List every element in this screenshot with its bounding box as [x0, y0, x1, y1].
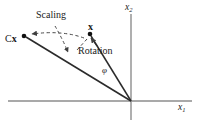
axis-x1-subscript: 1	[182, 106, 185, 113]
cx-vector-text: x	[12, 33, 17, 44]
scaling-leader-dashed	[55, 26, 68, 52]
cx-vector-label: Cx	[5, 34, 17, 44]
scaling-dashed-arc	[32, 33, 84, 38]
point-marker-x	[88, 32, 93, 37]
diagram-canvas	[0, 0, 199, 127]
axis-x1-label: x1	[178, 103, 185, 113]
axis-x2-subscript: 2	[129, 6, 132, 13]
figure-container: Scaling Cx x Rotation φ x2 x1	[0, 0, 199, 127]
rotation-label: Rotation	[78, 46, 112, 56]
axis-x2-label: x2	[125, 3, 132, 13]
phi-angle-label: φ	[102, 66, 107, 75]
x-vector-label: x	[88, 22, 93, 32]
scaling-label: Scaling	[36, 10, 66, 20]
point-marker-cx	[22, 34, 27, 39]
cx-scalar-text: C	[5, 33, 12, 44]
